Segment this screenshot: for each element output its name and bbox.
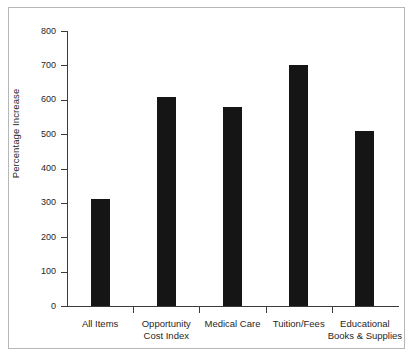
x-axis-tick <box>266 307 267 313</box>
bar <box>91 199 110 306</box>
bar <box>355 131 374 306</box>
x-axis-category-label-line: Books & Supplies <box>326 330 404 342</box>
x-axis-tick <box>199 307 200 313</box>
y-axis-tick-label: 800 <box>22 27 56 36</box>
bar <box>157 97 176 306</box>
x-axis-category-label-line: Educational <box>326 318 404 330</box>
x-axis-tick <box>133 307 134 313</box>
y-axis-tick-label: 100 <box>22 267 56 276</box>
y-axis-tick-label: 300 <box>22 198 56 207</box>
bar-chart: Percentage Increase 01002003004005006007… <box>0 0 415 364</box>
y-axis-tick <box>61 306 68 307</box>
x-axis-category-label: EducationalBooks & Supplies <box>326 318 404 341</box>
y-axis-tick-label: 700 <box>22 61 56 70</box>
y-axis-tick-label: 600 <box>22 95 56 104</box>
bar <box>289 65 308 306</box>
bars-layer <box>67 31 398 306</box>
x-axis-line <box>67 306 399 307</box>
y-axis-tick-label: 0 <box>22 302 56 311</box>
y-axis-tick-label: 500 <box>22 130 56 139</box>
y-axis-tick-label: 200 <box>22 233 56 242</box>
y-axis-tick-label: 400 <box>22 164 56 173</box>
x-axis-category-label-line: Cost Index <box>127 330 205 342</box>
bar <box>223 107 242 306</box>
x-axis-tick <box>332 307 333 313</box>
y-axis-title: Percentage Increase <box>10 74 21 194</box>
